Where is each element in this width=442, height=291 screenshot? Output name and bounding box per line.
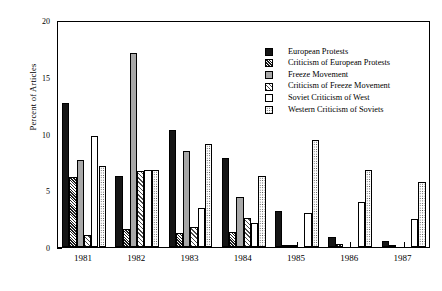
bar <box>304 213 311 247</box>
legend-item: Soviet Criticism of West <box>265 92 390 104</box>
legend-swatch-icon <box>265 94 273 102</box>
legend-item-label: European Protests <box>288 48 348 56</box>
bar <box>115 176 122 248</box>
bar <box>91 136 98 247</box>
legend-item: Western Criticism of Soviets <box>265 104 390 116</box>
bar <box>198 208 205 247</box>
x-tick-mark <box>404 242 405 247</box>
x-tick-label: 1981 <box>53 253 113 263</box>
bar <box>205 144 212 247</box>
y-axis-title: Percent of Articles <box>28 27 38 167</box>
bar <box>176 233 183 247</box>
legend-item-label: Freeze Movement <box>288 71 348 79</box>
x-tick-mark <box>84 242 85 247</box>
bar <box>389 245 396 247</box>
bar <box>84 235 91 247</box>
bar <box>328 237 335 247</box>
y-tick-mark <box>57 248 62 249</box>
bar <box>62 103 69 247</box>
bar <box>290 245 297 247</box>
x-tick-label: 1987 <box>373 253 433 263</box>
x-tick-mark <box>297 242 298 247</box>
bar <box>244 218 251 248</box>
chart-legend: European ProtestsCriticism of European P… <box>265 46 390 116</box>
bar <box>123 229 130 247</box>
legend-swatch-icon <box>265 59 273 67</box>
legend-item: Criticism of European Protests <box>265 58 390 70</box>
legend-item: Criticism of Freeze Movement <box>265 81 390 93</box>
bar <box>169 130 176 247</box>
bar <box>137 171 144 247</box>
bar <box>411 219 418 247</box>
x-tick-label: 1985 <box>266 253 326 263</box>
y-tick-label: 5 <box>28 187 50 196</box>
y-tick-label: 15 <box>28 73 50 82</box>
bar <box>275 211 282 247</box>
x-tick-label: 1986 <box>319 253 379 263</box>
legend-item-label: Criticism of Freeze Movement <box>288 82 390 90</box>
bar <box>312 140 319 247</box>
legend-swatch-icon <box>265 71 273 79</box>
y-tick-label: 10 <box>28 130 50 139</box>
x-tick-mark <box>244 242 245 247</box>
x-tick-mark <box>190 242 191 247</box>
x-tick-label: 1982 <box>106 253 166 263</box>
bar <box>418 182 425 247</box>
bar <box>365 170 372 247</box>
bar <box>144 170 151 247</box>
bar <box>183 151 190 247</box>
x-tick-label: 1983 <box>159 253 219 263</box>
legend-item-label: Western Criticism of Soviets <box>288 106 383 114</box>
bar <box>282 245 289 247</box>
bar <box>222 158 229 247</box>
legend-item: European Protests <box>265 46 390 58</box>
x-tick-mark <box>350 242 351 247</box>
bar <box>258 176 265 248</box>
x-tick-mark <box>137 242 138 247</box>
legend-item-label: Soviet Criticism of West <box>288 94 369 102</box>
bar <box>152 170 159 247</box>
legend-swatch-icon <box>265 83 273 91</box>
bar <box>99 166 106 247</box>
bar-chart: Percent of Articles 05101520 European Pr… <box>0 0 442 291</box>
plot-area: European ProtestsCriticism of European P… <box>57 21 430 248</box>
legend-item-label: Criticism of European Protests <box>288 59 390 67</box>
legend-swatch-icon <box>265 48 273 56</box>
bar <box>190 227 197 247</box>
bar <box>382 241 389 247</box>
bar <box>336 244 343 247</box>
bar <box>77 160 84 247</box>
bar <box>236 197 243 247</box>
legend-item: Freeze Movement <box>265 69 390 81</box>
bar <box>251 223 258 247</box>
x-tick-label: 1984 <box>213 253 273 263</box>
legend-swatch-icon <box>265 106 273 114</box>
y-tick-label: 20 <box>28 17 50 26</box>
bar <box>358 202 365 247</box>
bar <box>69 177 76 247</box>
bar <box>130 53 137 247</box>
bar <box>229 232 236 247</box>
y-tick-label: 0 <box>28 244 50 253</box>
